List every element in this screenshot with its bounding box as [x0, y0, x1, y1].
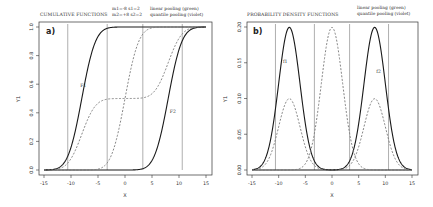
y-tick-label: 0.4	[29, 109, 34, 117]
y-tick-label: 1.0	[29, 23, 34, 31]
panel-a-label: a)	[46, 27, 55, 36]
x-tick-label: 15	[409, 181, 415, 186]
x-tick-label: -15	[40, 181, 48, 186]
curve-label-f2: F2	[170, 109, 176, 114]
y-tick-label: 0.8	[29, 52, 34, 60]
x-tick-label: 0	[330, 181, 333, 186]
legend-params-1: m1=-8 s1=2	[112, 6, 140, 11]
y-tick-label: 0.0	[29, 166, 34, 174]
series-quantile-pooling	[44, 27, 206, 170]
x-tick-label: -5	[96, 181, 101, 186]
panel-b: PROBABILITY DENSITY FUNCTIONS linear poo…	[222, 5, 418, 198]
x-tick-label: 5	[150, 181, 153, 186]
curves	[44, 27, 206, 170]
quantile-reference-lines	[275, 24, 388, 170]
y-tick-label: 0.20	[237, 22, 242, 33]
y-tick-label: 0.10	[237, 93, 242, 104]
panel-b-label: b)	[253, 27, 262, 36]
y-tick-label: 0.2	[29, 138, 34, 146]
y-tick-label: 0.05	[237, 129, 242, 140]
x-axis-label: X	[123, 192, 127, 198]
series-f2	[44, 27, 206, 170]
legend-linear: linear pooling (green)	[150, 6, 199, 11]
series-linear-pooling	[252, 99, 412, 170]
panel-a-title: CUMULATIVE FUNCTIONS	[40, 12, 108, 17]
x-tick-label: 10	[382, 181, 388, 186]
series-f2	[252, 27, 412, 170]
x-tick-label: -15	[248, 181, 256, 186]
x-tick-label: 5	[357, 181, 360, 186]
y-tick-label: 0.00	[237, 165, 242, 176]
x-tick-label: 15	[203, 181, 209, 186]
x-tick-label: -5	[303, 181, 308, 186]
legend-linear-b: linear pooling (green)	[357, 5, 406, 10]
x-axis-label: X	[330, 192, 334, 198]
plot-frame	[39, 22, 212, 175]
legend-quantile-b: quantile pooling (violet)	[357, 11, 411, 16]
legend-params-2: m2=+8 s2=2	[112, 12, 142, 17]
x-tick-label: -10	[67, 181, 75, 186]
x-tick-label: -10	[275, 181, 283, 186]
y-tick-label: 0.6	[29, 80, 34, 88]
y-axis-label: Y1	[15, 96, 21, 103]
panel-a: CUMULATIVE FUNCTIONS m1=-8 s1=2 m2=+8 s2…	[15, 6, 212, 198]
panel-b-title: PROBABILITY DENSITY FUNCTIONS	[247, 12, 339, 17]
series-f1	[44, 27, 206, 170]
legend-quantile: quantile pooling (violet)	[150, 12, 204, 17]
series-quantile-pooling	[252, 27, 412, 170]
x-tick-label: 10	[176, 181, 182, 186]
series-linear-pooling	[44, 27, 206, 170]
figure: CUMULATIVE FUNCTIONS m1=-8 s1=2 m2=+8 s2…	[0, 0, 433, 207]
x-tick-label: 0	[123, 181, 126, 186]
curve-label-f1: F1	[80, 83, 86, 88]
y-tick-label: 0.15	[237, 57, 242, 68]
series-f1	[252, 27, 412, 170]
curve-label-f2: f2	[376, 69, 381, 74]
curves	[252, 27, 412, 170]
y-axis-label: Y1	[222, 96, 228, 103]
curve-label-f1: f1	[283, 59, 288, 64]
